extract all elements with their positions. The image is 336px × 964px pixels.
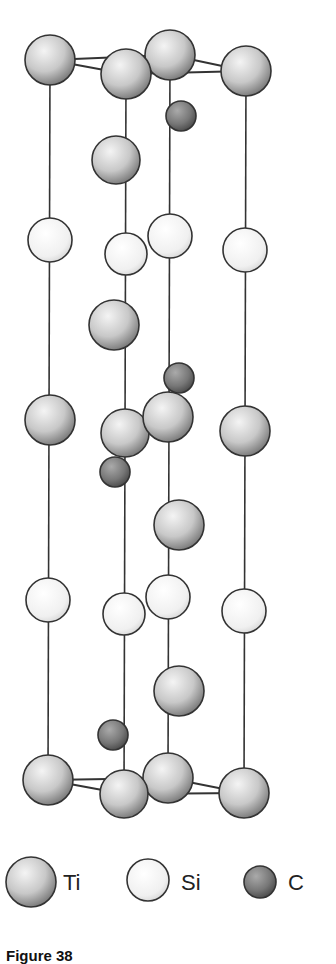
atom-ti — [154, 666, 204, 716]
legend-label-ti: Ti — [63, 870, 81, 896]
atom-si — [223, 228, 267, 272]
atom-ti — [100, 770, 148, 818]
atom-si — [26, 578, 70, 622]
atom-si — [28, 218, 72, 262]
atom-c — [100, 457, 130, 487]
atom-ti — [101, 409, 149, 457]
legend-swatch-c — [244, 866, 276, 898]
atom-ti — [89, 300, 139, 350]
atom-ti — [25, 35, 75, 85]
atom-ti — [221, 46, 271, 96]
legend-label-si: Si — [181, 870, 201, 896]
atom-si — [146, 575, 190, 619]
atom-ti — [145, 30, 195, 80]
legend-label-c: C — [288, 870, 304, 896]
atom-c — [98, 720, 128, 750]
atom-si — [222, 589, 266, 633]
atom-c — [166, 101, 196, 131]
atom-ti — [143, 392, 193, 442]
atom-ti — [143, 753, 193, 803]
atom-si — [148, 214, 192, 258]
atom-c — [164, 363, 194, 393]
atom-si — [103, 593, 145, 635]
atom-ti — [154, 500, 204, 550]
atom-ti — [101, 49, 151, 99]
atom-ti — [219, 768, 269, 818]
atoms-layer — [23, 30, 271, 818]
figure-caption: Figure 38 — [6, 947, 73, 964]
atom-si — [105, 233, 147, 275]
atom-ti — [92, 136, 140, 184]
atom-ti — [23, 755, 73, 805]
legend-swatch-si — [127, 859, 169, 901]
atom-ti — [220, 406, 270, 456]
legend — [6, 857, 276, 907]
legend-swatch-ti — [6, 857, 56, 907]
atom-ti — [25, 395, 75, 445]
